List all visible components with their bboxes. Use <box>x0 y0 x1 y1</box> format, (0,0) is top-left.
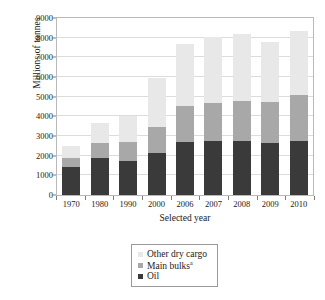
x-axis-tick-label: 2008 <box>229 199 255 209</box>
bar-segment[interactable] <box>233 101 251 141</box>
y-axis-tick-label: 7000 <box>17 53 53 62</box>
bar-segment[interactable] <box>261 42 279 102</box>
y-axis-tick-label: 9000 <box>17 14 53 23</box>
bar-column[interactable] <box>119 18 137 195</box>
legend-swatch-icon <box>138 274 143 279</box>
y-axis-tick-mark <box>52 175 56 176</box>
y-axis-tick-mark <box>52 37 56 38</box>
legend-footnote-marker: a <box>190 260 193 266</box>
x-axis-tick-label: 1980 <box>87 199 113 209</box>
y-axis-tick-label: 8000 <box>17 33 53 42</box>
x-axis-tick-label: 2010 <box>286 199 312 209</box>
x-axis-tick-label: 2000 <box>144 199 170 209</box>
bar-column[interactable] <box>261 18 279 195</box>
y-axis-tick-mark <box>52 57 56 58</box>
x-axis-tick-label: 1970 <box>58 199 84 209</box>
y-axis-tick-label: 2000 <box>17 151 53 160</box>
x-axis-tick-label: 2007 <box>200 199 226 209</box>
bar-segment[interactable] <box>204 37 222 102</box>
bar-segment[interactable] <box>91 123 109 143</box>
bar-segment[interactable] <box>290 31 308 95</box>
x-axis-title: Selected year <box>56 213 314 223</box>
bar-segment[interactable] <box>148 153 166 195</box>
y-axis-tick-mark <box>52 155 56 156</box>
bar-column[interactable] <box>91 18 109 195</box>
bar-segment[interactable] <box>119 116 137 142</box>
bar-segment[interactable] <box>62 158 80 167</box>
legend-swatch-icon <box>138 263 143 268</box>
bar-column[interactable] <box>62 18 80 195</box>
bar-segment[interactable] <box>290 141 308 195</box>
bar-segment[interactable] <box>91 143 109 158</box>
bar-segment[interactable] <box>290 95 308 141</box>
legend-swatch-icon <box>138 252 143 257</box>
bar-segment[interactable] <box>148 127 166 152</box>
bar-segment[interactable] <box>233 34 251 101</box>
bar-segment[interactable] <box>176 44 194 106</box>
y-axis-tick-label: 3000 <box>17 132 53 141</box>
legend-item-label: Oil <box>147 271 159 282</box>
bar-column[interactable] <box>176 18 194 195</box>
y-axis-tick-label: 4000 <box>17 112 53 121</box>
legend-item[interactable]: Oil <box>138 271 207 282</box>
bar-segment[interactable] <box>176 106 194 142</box>
bars-layer <box>57 18 313 195</box>
y-axis-tick-mark <box>52 96 56 97</box>
x-axis-tick-label: 1990 <box>115 199 141 209</box>
x-axis-tick-label: 2006 <box>172 199 198 209</box>
bar-segment[interactable] <box>176 142 194 195</box>
y-axis-tick-mark <box>52 136 56 137</box>
bar-segment[interactable] <box>261 102 279 143</box>
bar-segment[interactable] <box>261 143 279 195</box>
bar-segment[interactable] <box>62 146 80 158</box>
bar-segment[interactable] <box>91 158 109 195</box>
bar-segment[interactable] <box>204 103 222 141</box>
legend-item[interactable]: Main bulksa <box>138 260 207 271</box>
bar-segment[interactable] <box>204 141 222 195</box>
bar-segment[interactable] <box>233 141 251 195</box>
bar-column[interactable] <box>204 18 222 195</box>
y-axis-tick-label: 5000 <box>17 92 53 101</box>
bar-segment[interactable] <box>62 167 80 195</box>
y-axis-tick-mark <box>52 77 56 78</box>
x-axis-tick-label: 2009 <box>257 199 283 209</box>
bar-segment[interactable] <box>119 161 137 195</box>
y-axis-tick-mark <box>52 18 56 19</box>
y-axis-tick-label: 1000 <box>17 171 53 180</box>
x-axis-tick-mark <box>314 196 315 200</box>
y-axis-tick-mark <box>52 116 56 117</box>
y-axis-tick-label: 0 <box>17 191 53 200</box>
x-axis-labels: 197019801990200020062007200820092010 <box>57 199 313 209</box>
y-axis-tick-label: 6000 <box>17 73 53 82</box>
bar-segment[interactable] <box>119 142 137 161</box>
bar-column[interactable] <box>148 18 166 195</box>
bar-segment[interactable] <box>148 78 166 128</box>
bar-column[interactable] <box>290 18 308 195</box>
stacked-bar-chart: Millions of tonnes 010002000300040005000… <box>0 0 325 300</box>
bar-column[interactable] <box>233 18 251 195</box>
chart-legend: Other dry cargoMain bulksaOil <box>131 244 218 287</box>
